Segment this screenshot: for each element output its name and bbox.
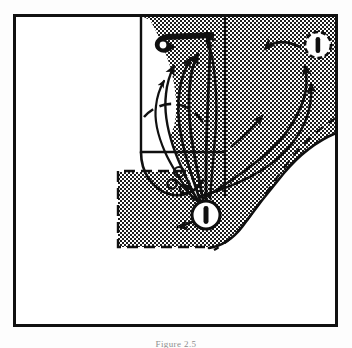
marker-top-right-glyph [316,37,321,53]
top-bar-knob-icon [159,41,167,49]
figure-root: Figure 2.5 [0,0,352,348]
figure-diagram [0,0,352,348]
figure-caption: Figure 2.5 [0,339,352,348]
marker-bottom-glyph [204,206,209,224]
